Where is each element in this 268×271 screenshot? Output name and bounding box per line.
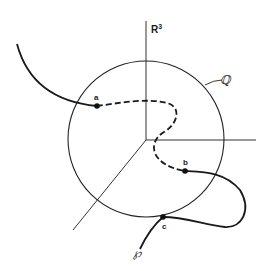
curve-outer-loop bbox=[163, 171, 245, 227]
space-label: R3 bbox=[151, 23, 162, 35]
curve-outer-end bbox=[140, 217, 163, 249]
point-b-label: b bbox=[183, 158, 188, 167]
point-c-label: c bbox=[162, 222, 167, 231]
sphere-label: ℚ bbox=[220, 73, 232, 87]
curve-label: ℘ bbox=[133, 246, 142, 260]
curve-outer-start bbox=[17, 44, 97, 106]
point-a bbox=[94, 103, 100, 109]
diagram-canvas: a b c R3 ℚ ℘ bbox=[0, 0, 268, 271]
point-a-label: a bbox=[94, 93, 99, 102]
point-c bbox=[160, 214, 166, 220]
axes bbox=[73, 21, 256, 230]
curve-interior-dashed bbox=[97, 101, 185, 171]
point-b bbox=[182, 168, 188, 174]
